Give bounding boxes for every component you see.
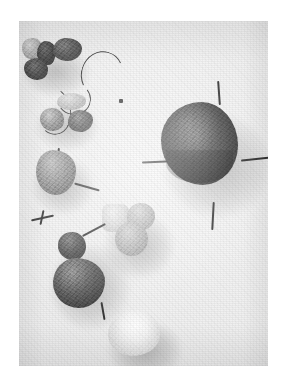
plate-grain-texture — [19, 21, 268, 366]
photograph-plate — [19, 21, 268, 366]
plate-caption — [20, 372, 266, 386]
page-root — [0, 0, 290, 389]
